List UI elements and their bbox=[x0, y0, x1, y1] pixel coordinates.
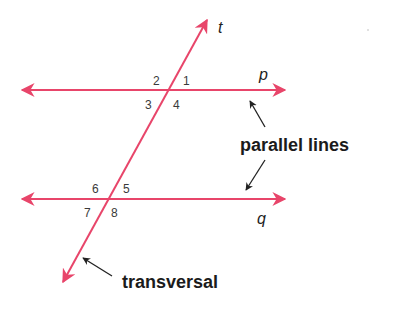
label-q: q bbox=[257, 210, 266, 227]
pointer-arrow-to-p bbox=[250, 101, 265, 127]
angle-1: 1 bbox=[183, 74, 190, 88]
angle-8: 8 bbox=[111, 206, 118, 220]
angle-6: 6 bbox=[92, 182, 99, 196]
parallel-lines-diagram: t p q 1 2 3 4 5 6 7 8 parallel lines tra… bbox=[0, 0, 394, 309]
speck bbox=[367, 29, 369, 31]
line-t bbox=[63, 20, 207, 282]
transversal-label: transversal bbox=[122, 272, 218, 292]
angle-2: 2 bbox=[153, 74, 160, 88]
label-t: t bbox=[218, 19, 223, 36]
parallel-lines-label: parallel lines bbox=[240, 135, 349, 155]
angle-5: 5 bbox=[123, 182, 130, 196]
pointer-arrow-to-q bbox=[246, 160, 265, 190]
pointer-arrow-to-transversal bbox=[83, 258, 112, 276]
angle-4: 4 bbox=[173, 98, 180, 112]
angle-3: 3 bbox=[145, 98, 152, 112]
label-p: p bbox=[258, 66, 268, 83]
angle-7: 7 bbox=[84, 206, 91, 220]
